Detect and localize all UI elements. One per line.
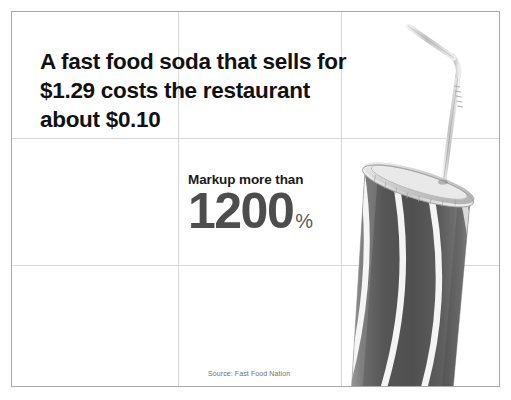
- markup-stat-block: Markup more than 1200 %: [188, 172, 313, 234]
- straw-hole-shape: [438, 179, 448, 184]
- cup-body-shape: [338, 162, 500, 387]
- markup-stat-value-row: 1200 %: [188, 188, 313, 234]
- headline-line-3: about $0.10: [40, 106, 440, 135]
- markup-stat-unit: %: [293, 211, 313, 234]
- grid-line-horizontal-1: [12, 138, 499, 139]
- headline-line-1: A fast food soda that sells for: [40, 48, 440, 77]
- headline: A fast food soda that sells for $1.29 co…: [40, 48, 440, 134]
- grid-line-horizontal-2: [12, 265, 499, 266]
- markup-stat-number: 1200: [188, 188, 293, 234]
- slide-canvas: A fast food soda that sells for $1.29 co…: [11, 11, 500, 387]
- source-credit: Source: Fast Food Nation: [208, 370, 290, 377]
- headline-line-2: $1.29 costs the restaurant: [40, 77, 440, 106]
- cup-lid-shape: [358, 154, 478, 218]
